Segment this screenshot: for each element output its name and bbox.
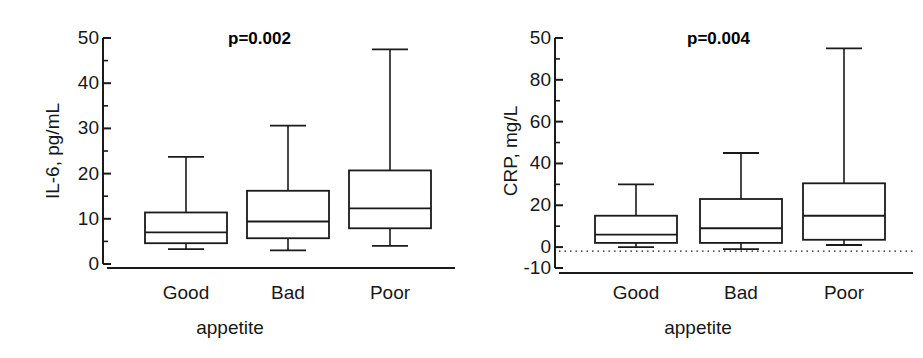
boxplot-figure: IL-6, pg/mL appetite p=0.002 CRP, mg/L a… xyxy=(0,0,923,358)
crp-plot-canvas xyxy=(461,0,923,358)
box-good xyxy=(595,184,677,247)
il6-ytick-label: 0 xyxy=(39,253,99,275)
crp-ytick-label: 50 xyxy=(491,27,551,49)
il6-x-axis-title: appetite xyxy=(150,317,310,339)
box-poor xyxy=(349,49,431,246)
crp-ytick-label: 20 xyxy=(491,194,551,216)
crp-ytick-label: 40 xyxy=(491,152,551,174)
crp-ytick-label: 80 xyxy=(491,69,551,91)
crp-p-value-annotation: p=0.004 xyxy=(687,29,750,49)
panel-crp xyxy=(461,0,923,358)
x-category-label-poor: Poor xyxy=(794,282,894,304)
crp-ytick-label: 60 xyxy=(491,111,551,133)
x-category-label-bad: Bad xyxy=(238,282,338,304)
x-category-label-good: Good xyxy=(136,282,236,304)
box-bad xyxy=(700,153,782,249)
box-good xyxy=(145,157,227,249)
il6-p-value-annotation: p=0.002 xyxy=(228,29,291,49)
il6-ytick-label: 10 xyxy=(39,208,99,230)
il6-ytick-label: 20 xyxy=(39,163,99,185)
x-category-label-bad: Bad xyxy=(691,282,791,304)
il6-y-axis-title: IL-6, pg/mL xyxy=(42,76,64,226)
box-poor xyxy=(803,48,885,245)
crp-ytick-label: -10 xyxy=(491,257,551,279)
x-category-label-good: Good xyxy=(586,282,686,304)
crp-ytick-label: 0 xyxy=(491,236,551,258)
il6-ytick-label: 50 xyxy=(39,27,99,49)
il6-ytick-label: 30 xyxy=(39,117,99,139)
x-category-label-poor: Poor xyxy=(340,282,440,304)
il6-ytick-label: 40 xyxy=(39,72,99,94)
crp-x-axis-title: appetite xyxy=(618,317,778,339)
box-bad xyxy=(247,126,329,251)
